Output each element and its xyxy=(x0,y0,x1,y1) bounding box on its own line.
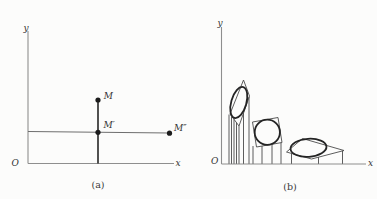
panel-a-origin-label: O xyxy=(12,158,20,168)
point-m-label: M xyxy=(103,91,114,101)
point-m-marker xyxy=(95,97,100,102)
stage-2-circle xyxy=(255,120,280,145)
panel-b-caption: (b) xyxy=(283,181,297,192)
stage-2-quad-outline xyxy=(253,118,283,148)
disc-stage-1 xyxy=(227,80,250,164)
point-m-double-prime-label: M″ xyxy=(173,123,187,133)
panel-b-origin-label: O xyxy=(211,156,219,166)
point-m-prime-label: M′ xyxy=(103,120,115,130)
panel-a: y x O M M′ M″ (a) xyxy=(12,23,188,190)
stage-2-drop-lines xyxy=(253,143,281,164)
point-m-double-prime-marker xyxy=(167,131,172,136)
panel-a-x-axis-label: x xyxy=(176,158,181,168)
panel-a-y-axis-label: y xyxy=(22,23,29,33)
math-figure: y x O M M′ M″ (a) xyxy=(0,0,377,199)
figure-svg: y x O M M′ M″ (a) xyxy=(0,0,377,199)
disc-stage-2 xyxy=(253,118,283,164)
point-m-prime-marker xyxy=(95,130,100,135)
stage-1-ellipse xyxy=(227,85,250,120)
disc-stage-3 xyxy=(287,138,345,164)
panel-a-caption: (a) xyxy=(91,179,104,190)
panel-b: y x O (b) xyxy=(211,18,373,192)
panel-b-x-axis-label: x xyxy=(368,158,373,168)
panel-b-y-axis-label: y xyxy=(216,18,223,28)
